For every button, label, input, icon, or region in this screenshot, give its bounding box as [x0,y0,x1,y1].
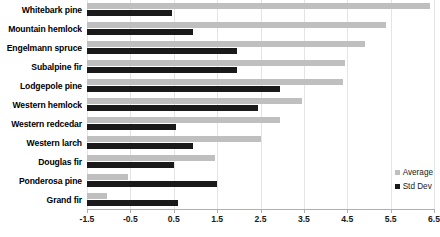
legend-label: Average [403,168,433,177]
bar-row [87,171,434,190]
tick-mark [130,209,131,213]
tick-label: 0.5 [168,214,180,224]
bar-average [87,136,261,142]
tick-label: 4.5 [341,214,353,224]
bar-row [87,95,434,114]
tick-mark [434,209,435,213]
category-axis-labels: Whitebark pineMountain hemlockEngelmann … [0,0,86,209]
tick-mark [217,209,218,213]
legend-label: Std Dev [403,182,432,191]
bar-average [87,60,345,66]
bar-average [87,41,365,47]
category-label: Mountain hemlock [0,19,86,38]
bar-row [87,38,434,57]
category-label: Lodgepole pine [0,76,86,95]
bar-std-dev [87,143,193,149]
category-label: Whitebark pine [0,0,86,19]
bar-rows [87,0,434,209]
tick-label: -1.5 [80,214,95,224]
tick-label: 5.5 [385,214,397,224]
category-label: Engelmann spruce [0,38,86,57]
tick-mark [174,209,175,213]
bar-average [87,117,280,123]
legend-item: Std Dev [395,182,433,191]
bar-std-dev [87,29,193,35]
tick-label: 1.5 [211,214,223,224]
chart-legend: AverageStd Dev [395,168,433,191]
bar-row [87,76,434,95]
plot-area [87,0,434,209]
tick-label: 6.5 [428,214,440,224]
bar-average [87,174,128,180]
bar-row [87,19,434,38]
tick-mark [87,209,88,213]
bar-std-dev [87,48,237,54]
bar-std-dev [87,162,174,168]
tick-mark [391,209,392,213]
bar-average [87,98,302,104]
category-label: Ponderosa pine [0,171,86,190]
bar-row [87,0,434,19]
bar-average [87,22,386,28]
gridline [434,0,435,209]
bar-std-dev [87,105,258,111]
tick-mark [347,209,348,213]
bar-std-dev [87,124,176,130]
bar-average [87,79,343,85]
category-label: Douglas fir [0,152,86,171]
tick-label: 2.5 [255,214,267,224]
bar-row [87,133,434,152]
legend-item: Average [395,168,433,177]
bar-std-dev [87,86,280,92]
category-label: Western larch [0,133,86,152]
category-label: Subalpine fir [0,57,86,76]
x-axis-ticks [87,209,434,213]
category-label: Western hemlock [0,95,86,114]
tick-label: -0.5 [123,214,138,224]
bar-std-dev [87,67,237,73]
category-label: Western redcedar [0,114,86,133]
x-axis-tick-labels: -1.5-0.50.51.52.53.54.55.56.5 [87,214,434,228]
bar-std-dev [87,200,178,206]
bar-average [87,193,107,199]
bar-std-dev [87,181,217,187]
legend-swatch-icon [395,170,400,175]
bar-average [87,155,215,161]
legend-swatch-icon [395,184,400,189]
bar-row [87,152,434,171]
tick-mark [304,209,305,213]
category-label: Grand fir [0,190,86,209]
tick-mark [261,209,262,213]
bar-average [87,3,430,9]
bar-row [87,114,434,133]
bar-row [87,190,434,209]
bar-std-dev [87,10,172,16]
bar-row [87,57,434,76]
tick-label: 3.5 [298,214,310,224]
